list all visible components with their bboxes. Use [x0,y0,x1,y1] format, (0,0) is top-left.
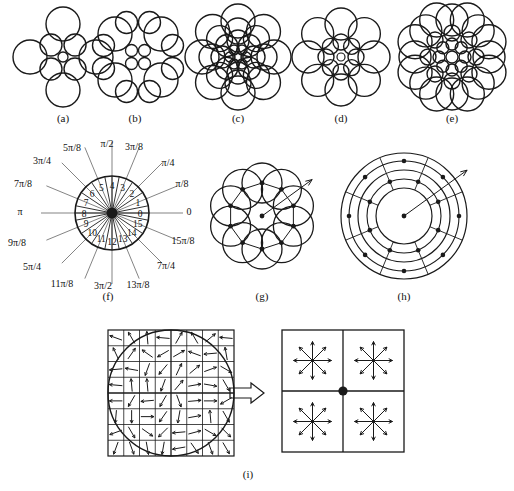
angle-label: 5π/8 [63,142,81,153]
sample-circle [333,34,349,50]
sample-circle [40,34,62,56]
leader-line [62,239,86,263]
angle-label: π/8 [176,178,189,189]
center-point [107,208,118,219]
sample-circle [410,67,442,99]
gradient-arrow-head [135,348,136,351]
histogram-bin-arrow-shaft [374,361,387,374]
gradient-arrow-head [177,420,178,423]
sample-point [436,200,441,205]
sector-index: 5 [99,183,104,193]
sample-circle [427,66,443,82]
sample-point [416,248,421,253]
gradient-arrow-shaft [175,380,183,390]
gradient-arrow-head [161,451,162,454]
sample-point [402,269,407,274]
gradient-arrow-shaft [160,395,167,406]
sector-index: 8 [82,209,87,219]
gradient-arrow-head [214,386,217,387]
histogram-bin-arrow-shaft [360,361,373,374]
panel-label-h: (h) [398,290,411,303]
sample-circle [46,7,80,41]
sector-index: 3 [120,183,125,193]
histogram-bin-arrow-shaft [360,408,373,421]
sample-circle [436,78,468,110]
sample-circle [344,60,360,76]
angle-label: 13π/8 [127,279,150,290]
sample-circle [427,32,443,48]
gradient-arrow-shaft [128,332,135,343]
sample-circle [348,49,364,65]
sample-circle [462,15,494,47]
sample-point [347,214,352,219]
sample-point [260,181,265,186]
leader-line [126,147,139,178]
panel-d [292,8,390,106]
histogram-bin-arrow-shaft [374,408,387,421]
panel-label-d: (d) [335,112,348,125]
sample-circle [322,60,338,76]
center-circle [446,51,458,63]
gradient-arrow-shaft [142,350,153,357]
histogram-bin-arrow-shaft [360,422,373,435]
ring-connector [231,226,243,243]
sample-circle [116,12,138,34]
sample-circle [318,49,334,65]
ring-connector [243,183,262,189]
sector-index: 7 [84,198,89,208]
sample-circle [333,64,349,80]
panel-c [185,4,291,110]
gradient-arrow-shaft [159,428,168,437]
sector-index: 6 [90,189,95,199]
sample-circle [162,35,184,57]
panel-f: 01234567891011121314150π/8π/43π/8π/25π/8… [8,138,194,291]
angle-label: 5π/4 [23,261,41,272]
leader-line [46,227,77,240]
sector-index: 4 [110,181,115,191]
sample-circle [436,4,468,36]
gradient-arrow-head [142,350,145,351]
sample-circle [64,34,86,56]
gradient-arrow-shaft [190,365,200,373]
sample-circle [410,15,442,47]
angle-label: 3π/8 [125,141,143,152]
angle-label: π [17,206,22,217]
sample-circle [162,58,184,80]
gradient-arrow-shaft [128,348,135,359]
sample-point [240,240,245,245]
ring-connector [243,243,262,249]
panel-h [341,153,467,279]
sample-circle [399,41,431,73]
center-circle [58,52,68,62]
sample-point [388,248,393,253]
histogram-bin-arrow-shaft [313,361,326,374]
angle-label: 7π/8 [14,178,32,189]
gradient-arrow-shaft [159,411,166,422]
sector-index: 11 [97,234,106,244]
panel-a [13,7,113,107]
panel-i-orientation-histograms [282,330,404,452]
sample-circle [461,32,477,48]
sector-index: 2 [129,189,134,199]
angle-label: 11π/8 [51,278,73,289]
sample-point [416,180,421,185]
gradient-arrow-shaft [176,332,183,343]
sample-point [402,159,407,164]
gradient-arrow-head [159,419,160,422]
gradient-arrow-shaft [205,334,215,342]
angle-label: 9π/8 [8,237,26,248]
gradient-arrow-shaft [205,429,216,436]
panel-label-g: (g) [256,290,269,303]
leader-line [46,186,77,199]
histogram-bin-arrow-shaft [374,422,387,435]
leader-line [85,147,98,178]
panel-i-transition-arrow [230,383,264,403]
angle-label: 15π/8 [172,235,195,246]
angle-label: 3π/4 [33,155,51,166]
histogram-bin-arrow-shaft [313,347,326,360]
sector-index: 12 [107,237,117,247]
figure-canvas: 01234567891011121314150π/8π/43π/8π/25π/8… [0,0,514,491]
gradient-arrow-head [125,367,128,368]
histogram-bin-arrow-shaft [299,408,312,421]
sample-circle [64,58,86,80]
